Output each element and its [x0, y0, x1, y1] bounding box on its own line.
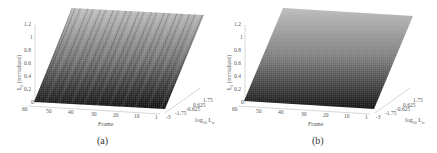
xtick: 30	[301, 112, 307, 118]
panel-caption: (b)	[312, 136, 324, 146]
ztick: -0.625	[186, 107, 200, 113]
ytick: 0.4	[234, 74, 241, 80]
y-axis-label: Ld (normalized)	[16, 55, 24, 90]
ytick: 0.2	[234, 87, 241, 93]
xtick: 60	[232, 107, 238, 113]
xtick: 20	[323, 113, 329, 119]
xtick: 1	[365, 115, 368, 121]
xtick: 10	[134, 114, 140, 120]
ytick: 0	[241, 100, 244, 106]
x-axis-label: Frame	[308, 121, 323, 127]
xtick: 40	[278, 110, 284, 116]
panel-caption: (a)	[97, 136, 108, 146]
xtick: 60	[22, 107, 28, 113]
xtick: 50	[46, 109, 52, 115]
ytick: 1	[30, 35, 33, 41]
ztick: -1.75	[175, 111, 186, 117]
ytick: 0.8	[24, 48, 31, 54]
xtick: 20	[113, 113, 119, 119]
ztick: -3	[166, 115, 171, 121]
panel-b: 1.2 1 0.8 0.6 0.4 0.2 0 Ld (normalized) …	[210, 0, 428, 153]
y-axis-label: Ld (normalized)	[226, 55, 234, 90]
xtick: 30	[91, 112, 97, 118]
surface-plot-a	[0, 0, 218, 153]
ytick: 1.2	[234, 22, 241, 28]
ytick: 0.6	[234, 61, 241, 67]
xtick: 1	[155, 115, 158, 121]
ztick: -1.75	[385, 111, 396, 117]
xtick: 40	[68, 110, 74, 116]
ztick: -3	[376, 115, 381, 121]
x-axis-label: Frame	[98, 121, 113, 127]
z-axis-label: log10 Lw	[405, 117, 425, 125]
xtick: 10	[344, 114, 350, 120]
panel-a: 1.2 1 0.8 0.6 0.4 0.2 0 Ld (normalized) …	[0, 0, 218, 153]
ytick: 0.4	[24, 74, 31, 80]
ytick: 1.2	[24, 22, 31, 28]
xtick: 50	[256, 109, 262, 115]
ytick: 0.8	[234, 48, 241, 54]
ytick: 1	[240, 35, 243, 41]
ztick: -0.625	[396, 107, 410, 113]
surface-plot-b	[210, 0, 428, 153]
ytick: 0	[31, 100, 34, 106]
ytick: 0.6	[24, 61, 31, 67]
ytick: 0.2	[24, 87, 31, 93]
